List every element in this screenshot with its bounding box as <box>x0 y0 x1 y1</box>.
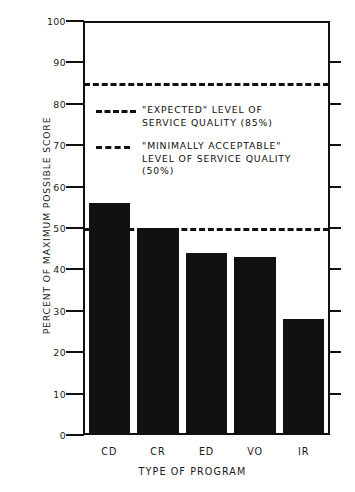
x-category-label-CD: CD <box>101 446 117 457</box>
y-tick-mark-right <box>329 103 341 105</box>
legend-swatch-long-dash-icon <box>96 110 136 113</box>
y-tick-mark-left <box>66 268 84 270</box>
y-tick-mark-left <box>66 61 84 63</box>
legend-label-expected: "EXPECTED" LEVEL OF SERVICE QUALITY (85%… <box>142 104 326 129</box>
bar-CR <box>137 228 179 435</box>
bar-IR <box>283 319 325 435</box>
y-tick-label: 100 <box>26 16 66 27</box>
y-tick-mark-right <box>329 144 341 146</box>
y-tick-label: 0 <box>26 430 66 441</box>
bar-series <box>85 21 328 435</box>
bar-chart-figure: PERCENT OF MAXIMUM POSSIBLE SCORE 100908… <box>0 0 355 492</box>
x-axis-title-text: TYPE OF PROGRAM <box>139 466 247 477</box>
legend-swatch-short-dash-icon <box>96 146 130 149</box>
y-tick-mark-left <box>66 227 84 229</box>
legend: "EXPECTED" LEVEL OF SERVICE QUALITY (85%… <box>96 104 326 189</box>
scan-edge-artifact <box>0 486 355 492</box>
y-tick-label: 40 <box>26 264 66 275</box>
x-category-label-ED: ED <box>199 446 214 457</box>
y-tick-label: 60 <box>26 181 66 192</box>
legend-entry-expected: "EXPECTED" LEVEL OF SERVICE QUALITY (85%… <box>96 104 326 129</box>
y-tick-label: 50 <box>26 223 66 234</box>
y-tick-mark-right <box>329 227 341 229</box>
y-tick-label: 90 <box>26 57 66 68</box>
bar-CD <box>89 203 131 435</box>
x-axis-title: TYPE OF PROGRAM <box>0 466 355 477</box>
y-tick-mark-right <box>329 310 341 312</box>
y-tick-mark-left <box>66 351 84 353</box>
bar-VO <box>234 257 276 435</box>
bar-ED <box>186 253 228 435</box>
x-category-label-VO: VO <box>247 446 263 457</box>
y-tick-mark-right <box>329 61 341 63</box>
y-tick-mark-right <box>329 393 341 395</box>
x-category-label-CR: CR <box>150 446 165 457</box>
legend-label-minimally-acceptable: "MINIMALLY ACCEPTABLE" LEVEL OF SERVICE … <box>142 140 326 178</box>
y-tick-mark-left <box>66 186 84 188</box>
y-tick-label: 30 <box>26 305 66 316</box>
y-tick-label: 70 <box>26 140 66 151</box>
x-category-label-IR: IR <box>298 446 309 457</box>
y-tick-label: 80 <box>26 98 66 109</box>
y-tick-mark-right <box>329 268 341 270</box>
y-tick-mark-left <box>66 20 84 22</box>
y-tick-mark-left <box>66 310 84 312</box>
y-tick-mark-left <box>66 434 84 436</box>
y-tick-mark-left <box>66 103 84 105</box>
y-tick-mark-right <box>329 351 341 353</box>
y-tick-label: 20 <box>26 347 66 358</box>
y-tick-mark-right <box>329 186 341 188</box>
y-tick-mark-left <box>66 144 84 146</box>
legend-entry-minimally-acceptable: "MINIMALLY ACCEPTABLE" LEVEL OF SERVICE … <box>96 140 326 178</box>
y-tick-label: 10 <box>26 388 66 399</box>
y-tick-mark-left <box>66 393 84 395</box>
